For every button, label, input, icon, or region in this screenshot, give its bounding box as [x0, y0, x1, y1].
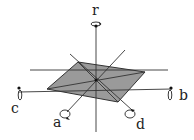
- rotation-arrow-r-icon: [91, 22, 101, 28]
- label-d: d: [136, 116, 145, 132]
- rotation-arrow-d-icon: [125, 109, 135, 118]
- rotation-diagram: r c b a d: [0, 0, 194, 140]
- label-c: c: [11, 100, 19, 116]
- label-a: a: [53, 114, 61, 130]
- rotation-arrow-b-icon: [168, 86, 172, 100]
- center-point: [95, 79, 98, 82]
- rotation-arrow-c-icon: [17, 86, 21, 100]
- rotation-arrow-a-icon: [60, 110, 70, 120]
- label-b: b: [179, 87, 188, 103]
- label-r: r: [92, 2, 99, 18]
